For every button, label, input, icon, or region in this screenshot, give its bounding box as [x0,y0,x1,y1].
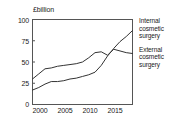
series-line [33,31,133,91]
legend-item-external: External cosmetic surgery [139,46,176,69]
legend-label-line: External [139,46,176,54]
chart-figure: £billion 100 75 50 25 0 2000 2005 2010 2… [0,0,176,128]
data-series-group [33,31,133,91]
legend-item-internal: Internal cosmetic surgery [139,17,176,40]
chart-legend: Internal cosmetic surgery External cosme… [139,17,176,75]
legend-label-line: Internal [139,17,176,25]
legend-label-line: surgery [139,32,176,40]
series-line [33,49,133,79]
legend-label-line: cosmetic [139,53,176,61]
legend-label-line: cosmetic [139,25,176,33]
legend-label-line: surgery [139,61,176,69]
